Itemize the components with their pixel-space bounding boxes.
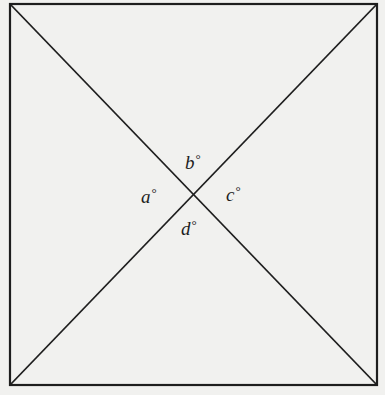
degree-symbol: ° — [235, 183, 240, 198]
degree-symbol: ° — [152, 185, 157, 200]
degree-symbol: ° — [196, 151, 201, 166]
angle-letter-d: d — [181, 218, 191, 239]
angle-label-c: c° — [226, 184, 241, 204]
angle-letter-c: c — [226, 184, 234, 205]
angle-letter-b: b — [185, 152, 195, 173]
angle-label-d: d° — [181, 218, 197, 238]
angle-label-a: a° — [141, 186, 157, 206]
diagram-canvas: a° b° c° d° — [0, 0, 385, 395]
angle-label-b: b° — [185, 152, 201, 172]
degree-symbol: ° — [192, 217, 197, 232]
square-diagram — [0, 0, 385, 395]
angle-letter-a: a — [141, 186, 151, 207]
